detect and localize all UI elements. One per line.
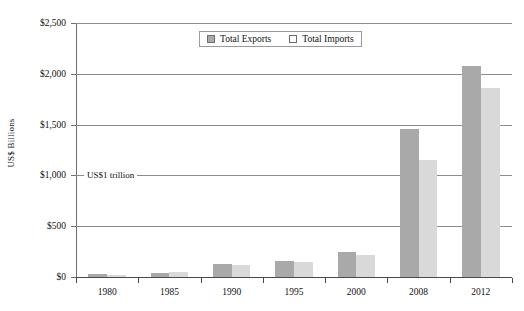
gridline: [76, 125, 512, 126]
legend-swatch-icon: [289, 35, 297, 43]
x-axis-tick-mark: [201, 278, 202, 283]
x-axis-tick-mark: [512, 278, 513, 283]
bar-total-exports: [462, 66, 481, 277]
y-axis-tick-label: $0: [8, 272, 66, 282]
x-axis-tick-mark: [387, 278, 388, 283]
y-axis-tick-label: $1,500: [8, 120, 66, 130]
y-axis-tick-mark: [71, 125, 76, 126]
bar-total-exports: [338, 252, 357, 277]
legend-item-total-exports: Total Exports: [207, 34, 271, 44]
x-axis-tick-label: 2012: [471, 287, 490, 297]
gridline: [76, 175, 512, 176]
y-axis-tick-label: $2,000: [8, 69, 66, 79]
plot-area: 1980198519901995200020082012 US$1 trilli…: [76, 23, 512, 277]
y-axis-title: US$ Billions: [0, 0, 22, 285]
bar-chart-figure: US$ Billions $0$500$1,000$1,500$2,000$2,…: [0, 0, 524, 311]
bar-total-exports: [400, 129, 419, 277]
bar-total-exports: [213, 264, 232, 277]
gridline: [76, 74, 512, 75]
legend-item-total-imports: Total Imports: [289, 34, 353, 44]
x-axis-tick-label: 2000: [347, 287, 366, 297]
x-axis-tick-mark: [450, 278, 451, 283]
x-axis-tick-mark: [325, 278, 326, 283]
y-axis-tick-mark: [71, 23, 76, 24]
bar-total-imports: [481, 88, 500, 277]
y-axis-tick-mark: [71, 74, 76, 75]
x-axis-tick-label: 2008: [409, 287, 428, 297]
x-axis-tick-label: 1980: [98, 287, 117, 297]
bar-total-imports: [232, 265, 251, 277]
y-axis-tick-label: $500: [8, 221, 66, 231]
gridline: [76, 23, 512, 24]
x-axis-tick-label: 1985: [160, 287, 179, 297]
gridline: [76, 226, 512, 227]
x-axis-tick-label: 1995: [285, 287, 304, 297]
legend-label: Total Imports: [302, 34, 353, 44]
bar-total-imports: [356, 255, 375, 277]
x-axis-tick-label: 1990: [222, 287, 241, 297]
y-axis-line: [76, 23, 77, 278]
x-axis-line: [76, 277, 512, 278]
annotation-us1-trillion: US$1 trillion: [84, 170, 137, 180]
legend-swatch-icon: [207, 35, 215, 43]
y-axis-tick-mark: [71, 175, 76, 176]
y-axis-tick-mark: [71, 226, 76, 227]
legend-label: Total Exports: [220, 34, 271, 44]
bar-total-imports: [294, 262, 313, 277]
y-axis-tick-label: $2,500: [8, 18, 66, 28]
y-axis-tick-label: $1,000: [8, 170, 66, 180]
x-axis-tick-mark: [138, 278, 139, 283]
chart-legend: Total ExportsTotal Imports: [199, 31, 362, 47]
bar-total-imports: [419, 160, 438, 277]
x-axis-tick-mark: [76, 278, 77, 283]
x-axis-tick-mark: [263, 278, 264, 283]
bar-total-exports: [275, 261, 294, 277]
